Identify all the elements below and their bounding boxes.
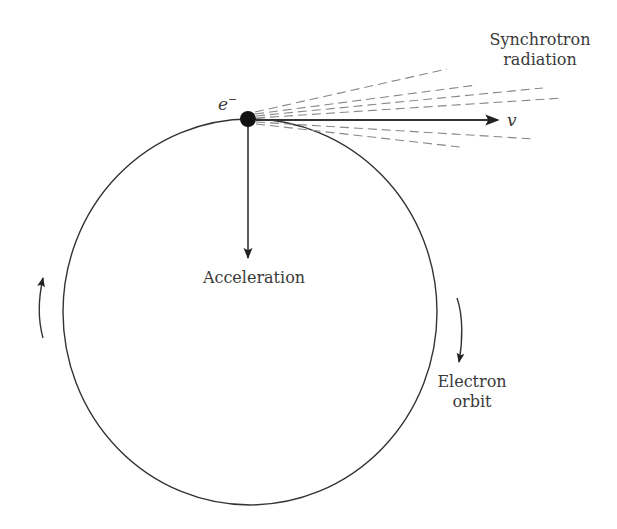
velocity-label: v: [507, 110, 517, 130]
radiation-label-line2: radiation: [478, 50, 602, 70]
diagram-canvas: [0, 0, 617, 529]
rotation-arrow-left-icon: [39, 278, 43, 338]
acceleration-label: Acceleration: [192, 268, 316, 288]
radiation-label: Synchrotron radiation: [478, 30, 602, 70]
electron-charge: −: [228, 93, 237, 106]
orbit-label-line1: Electron: [436, 372, 508, 392]
electron-label: e−: [218, 90, 237, 114]
orbit-label: Electron orbit: [436, 372, 508, 412]
synchrotron-radiation-rays: [255, 69, 563, 147]
electron-dot: [240, 111, 256, 127]
electron-symbol: e: [218, 94, 228, 114]
orbit-label-line2: orbit: [436, 392, 508, 412]
electron-orbit-circle: [63, 119, 437, 505]
rotation-arrow-right-icon: [457, 298, 462, 362]
synchrotron-diagram: e− v Synchrotron radiation Acceleration …: [0, 0, 617, 529]
radiation-label-line1: Synchrotron: [478, 30, 602, 50]
